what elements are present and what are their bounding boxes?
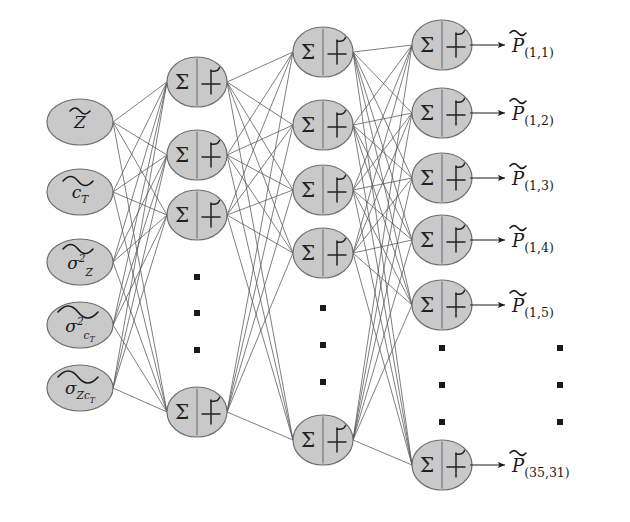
- input-node[interactable]: cT: [47, 169, 113, 215]
- sigma-icon: Σ: [420, 228, 434, 252]
- ellipsis-dot: [194, 310, 200, 316]
- hidden2-node[interactable]: Σ: [293, 100, 353, 150]
- network-canvas: ZcTσ2Zσ2cTσZcTΣΣΣΣΣΣΣΣΣΣΣΣΣΣΣP(1,1)P(1,2…: [0, 0, 630, 522]
- hidden2-node[interactable]: Σ: [293, 27, 353, 77]
- ellipsis-dot: [320, 342, 326, 348]
- output-layer: ΣΣΣΣΣΣ: [412, 20, 472, 490]
- ellipsis-dot: [194, 347, 200, 353]
- sigma-icon: Σ: [175, 70, 189, 94]
- output-node[interactable]: Σ: [412, 153, 472, 203]
- sigma-icon: Σ: [175, 400, 189, 424]
- output-node[interactable]: Σ: [412, 215, 472, 265]
- edges-hidden2-to-output: [353, 45, 412, 465]
- input-node[interactable]: Z: [47, 99, 113, 145]
- edges-input-to-hidden1: [113, 82, 167, 412]
- output-label: P(35,31): [511, 455, 570, 480]
- sigma-icon: Σ: [420, 33, 434, 57]
- node-ellipse: [47, 365, 113, 411]
- hidden2-node[interactable]: Σ: [293, 228, 353, 278]
- output-label: P(1,4): [511, 230, 554, 255]
- ellipsis-dot: [439, 419, 445, 425]
- output-labels: P(1,1)P(1,2)P(1,3)P(1,4)P(1,5)P(35,31): [470, 31, 570, 480]
- output-label: P(1,5): [511, 295, 554, 320]
- ellipsis-dot: [194, 274, 200, 280]
- sigma-icon: Σ: [301, 241, 315, 265]
- sigma-icon: Σ: [175, 203, 189, 227]
- sigma-icon: Σ: [420, 166, 434, 190]
- hidden2-node[interactable]: Σ: [293, 415, 353, 465]
- ellipsis-dot: [557, 419, 563, 425]
- hidden-layer-1-ellipsis: [194, 274, 200, 353]
- output-node[interactable]: Σ: [412, 280, 472, 330]
- edges-hidden1-to-hidden2: [227, 52, 293, 440]
- hidden2-node[interactable]: Σ: [293, 165, 353, 215]
- neural-network-diagram: ZcTσ2Zσ2cTσZcTΣΣΣΣΣΣΣΣΣΣΣΣΣΣΣP(1,1)P(1,2…: [0, 0, 630, 522]
- hidden1-node[interactable]: Σ: [167, 57, 227, 107]
- input-node[interactable]: σ2cT: [47, 302, 113, 348]
- sigma-icon: Σ: [301, 178, 315, 202]
- output-node[interactable]: Σ: [412, 440, 472, 490]
- ellipsis-dot: [320, 379, 326, 385]
- output-label: P(1,1): [511, 35, 554, 60]
- hidden-layer-2-ellipsis: [320, 305, 326, 385]
- sigma-icon: Σ: [420, 293, 434, 317]
- sigma-icon: Σ: [420, 101, 434, 125]
- sigma-icon: Σ: [301, 428, 315, 452]
- output-node[interactable]: Σ: [412, 20, 472, 70]
- sigma-icon: Σ: [175, 143, 189, 167]
- sigma-icon: Σ: [420, 453, 434, 477]
- hidden1-node[interactable]: Σ: [167, 130, 227, 180]
- sigma-icon: Σ: [301, 40, 315, 64]
- hidden-layer-2: ΣΣΣΣΣ: [293, 27, 353, 465]
- input-node[interactable]: σ2Z: [47, 239, 113, 285]
- input-node[interactable]: σZcT: [47, 365, 113, 411]
- hidden1-node[interactable]: Σ: [167, 387, 227, 437]
- output-node[interactable]: Σ: [412, 88, 472, 138]
- ellipsis-dot: [439, 345, 445, 351]
- hidden1-node[interactable]: Σ: [167, 190, 227, 240]
- ellipsis-dot: [439, 382, 445, 388]
- output-layer-ellipsis: [439, 345, 445, 425]
- hidden-layer-1: ΣΣΣΣ: [167, 57, 227, 437]
- input-node-label: Z: [73, 112, 87, 132]
- output-label: P(1,3): [511, 168, 554, 193]
- ellipsis-dot: [557, 345, 563, 351]
- input-layer: ZcTσ2Zσ2cTσZcT: [47, 99, 113, 411]
- ellipsis-dot: [320, 305, 326, 311]
- ellipsis-dot: [557, 382, 563, 388]
- connection-edges: [113, 45, 412, 465]
- sigma-icon: Σ: [301, 113, 315, 137]
- output-label: P(1,2): [511, 103, 554, 128]
- output-label-ellipsis: [557, 345, 563, 425]
